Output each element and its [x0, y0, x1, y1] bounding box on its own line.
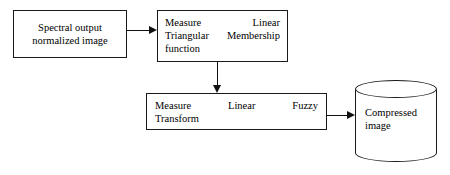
node-measure-transform-row1-right: Fuzzy — [292, 99, 318, 112]
node-measure-transform-row2: Transform — [155, 112, 318, 125]
arrowhead-right-icon — [347, 111, 355, 119]
node-measure-triangular-row1-left: Measure — [165, 16, 201, 29]
node-measure-triangular-row2-left: Triangular — [165, 29, 209, 42]
node-measure-transform-row1-left: Measure — [155, 99, 191, 112]
node-compressed-image-line2: image — [365, 119, 433, 132]
flowchart-diagram: Spectral output normalized image Measure… — [0, 0, 450, 175]
arrowhead-down-icon — [213, 85, 221, 93]
node-measure-triangular-row3-left: function — [165, 42, 200, 55]
node-spectral-output-label: Spectral output normalized image — [32, 21, 108, 47]
node-compressed-image: Compressed image — [355, 80, 437, 162]
node-measure-triangular-row2-right: Membership — [227, 29, 280, 42]
node-spectral-output-line2: normalized image — [32, 34, 108, 47]
node-measure-triangular-row1-right: Linear — [253, 16, 280, 29]
arrowhead-right-icon — [149, 26, 157, 34]
node-measure-transform: Measure Linear Fuzzy Transform — [146, 93, 327, 130]
node-measure-transform-row1: Measure Linear Fuzzy — [155, 99, 318, 112]
node-measure-triangular-row1: Measure Linear — [165, 16, 280, 29]
connector-line-horizontal — [327, 115, 348, 116]
node-measure-triangular-row2: Triangular Membership — [165, 29, 280, 42]
node-spectral-output-line1: Spectral output — [32, 21, 108, 34]
node-spectral-output: Spectral output normalized image — [13, 10, 127, 58]
node-compressed-image-line1: Compressed — [365, 106, 433, 119]
cylinder-top-ellipse — [355, 80, 437, 98]
node-compressed-image-label: Compressed image — [365, 106, 433, 132]
connector-line-horizontal — [127, 30, 150, 31]
node-measure-transform-row2-left: Transform — [155, 112, 199, 125]
connector-line-vertical — [217, 62, 218, 86]
node-measure-triangular: Measure Linear Triangular Membership fun… — [157, 10, 288, 62]
node-measure-transform-row1-mid: Linear — [228, 99, 255, 112]
node-measure-triangular-row3: function — [165, 42, 280, 55]
